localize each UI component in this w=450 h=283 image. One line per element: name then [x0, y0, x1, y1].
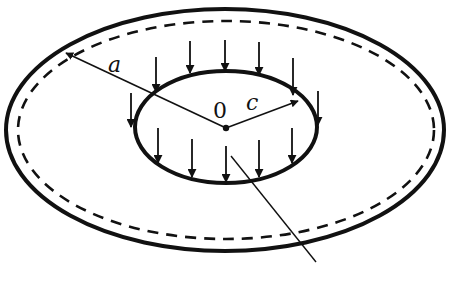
annular-plate-diagram: a 0 c	[0, 0, 450, 283]
radius-c-line	[226, 101, 298, 128]
center-point	[223, 125, 229, 131]
label-c: c	[246, 90, 258, 115]
label-a: a	[108, 52, 121, 77]
label-center-0: 0	[213, 98, 227, 123]
radius-a-line	[66, 53, 226, 128]
